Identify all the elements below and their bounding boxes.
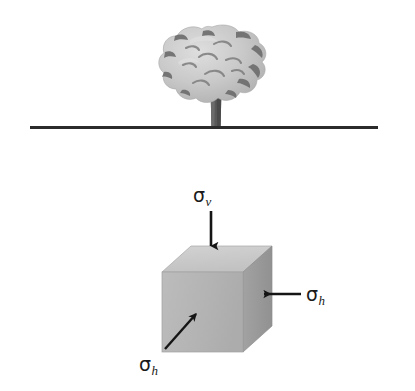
sigma-symbol: σ (306, 283, 318, 305)
sigma-subscript: h (318, 293, 325, 308)
tree-crown (159, 25, 266, 103)
sigma-h-label-right: σh (306, 285, 325, 307)
sigma-symbol: σ (139, 353, 151, 375)
sigma-symbol: σ (193, 184, 205, 206)
sigma-h-label-bottom: σh (139, 355, 158, 377)
soil-element-cube (162, 246, 272, 352)
stress-diagram-figure: σv σh σh (0, 0, 415, 391)
sigma-v-label: σv (193, 186, 211, 208)
sigma-subscript: h (151, 363, 158, 378)
tree (159, 25, 266, 127)
sigma-subscript: v (205, 194, 211, 209)
